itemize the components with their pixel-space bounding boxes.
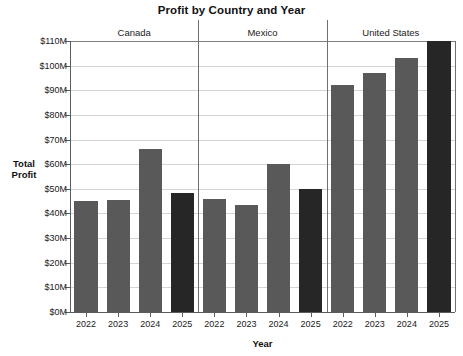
- x-axis-tick-mark: [311, 313, 312, 317]
- bar[interactable]: [203, 199, 226, 312]
- bar[interactable]: [171, 193, 194, 312]
- country-group-label: Mexico: [247, 27, 277, 38]
- x-axis-tick-mark: [150, 313, 151, 317]
- y-axis-tick-label: $50M: [7, 184, 67, 194]
- y-axis-tick-label: $100M: [7, 61, 67, 71]
- x-axis-tick-mark: [279, 313, 280, 317]
- bar[interactable]: [395, 58, 418, 312]
- x-axis-tick-mark: [343, 313, 344, 317]
- y-axis-tick-label: $30M: [7, 233, 67, 243]
- x-axis-tick-label: 2024: [269, 319, 289, 329]
- x-axis-tick-mark: [214, 313, 215, 317]
- country-group-header: Canada: [70, 24, 198, 41]
- x-axis-tick-label: 2025: [429, 319, 449, 329]
- bar[interactable]: [267, 164, 290, 312]
- x-axis-tick-labels: 2022202320242025202220232024202520222023…: [70, 313, 455, 337]
- x-axis-title: Year: [70, 338, 455, 349]
- y-axis-tick-label: $80M: [7, 110, 67, 120]
- y-axis-tick-label: $20M: [7, 258, 67, 268]
- group-divider-line: [327, 20, 328, 41]
- x-axis-tick-mark: [118, 313, 119, 317]
- x-axis-tick-mark: [407, 313, 408, 317]
- y-axis-tick-label: $10M: [7, 282, 67, 292]
- bar[interactable]: [74, 201, 97, 312]
- plot-area: [70, 41, 455, 312]
- x-axis-tick-mark: [86, 313, 87, 317]
- group-divider-line: [198, 41, 199, 312]
- bar[interactable]: [363, 73, 386, 312]
- x-axis-tick-label: 2023: [236, 319, 256, 329]
- bar[interactable]: [299, 189, 322, 312]
- y-axis-tick-label: $110M: [7, 36, 67, 46]
- gridline: [70, 41, 455, 42]
- x-axis-tick-label: 2025: [301, 319, 321, 329]
- y-axis-tick-label: $40M: [7, 208, 67, 218]
- x-axis-tick-mark: [375, 313, 376, 317]
- y-axis-tick-label: $70M: [7, 135, 67, 145]
- group-divider-line: [198, 20, 199, 41]
- y-axis-line: [70, 41, 71, 312]
- country-group-header: Mexico: [198, 24, 326, 41]
- bar[interactable]: [139, 149, 162, 312]
- bar[interactable]: [331, 85, 354, 312]
- bar[interactable]: [107, 200, 130, 312]
- x-axis-tick-label: 2024: [140, 319, 160, 329]
- x-axis-tick-label: 2022: [204, 319, 224, 329]
- chart-title: Profit by Country and Year: [0, 4, 463, 16]
- x-axis-tick-label: 2023: [108, 319, 128, 329]
- x-axis-tick-label: 2024: [397, 319, 417, 329]
- group-divider-line: [327, 41, 328, 312]
- country-header-band: CanadaMexicoUnited States: [70, 24, 455, 41]
- y-axis-tick-label: $0M: [7, 307, 67, 317]
- country-group-header: United States: [327, 24, 455, 41]
- x-axis-tick-mark: [182, 313, 183, 317]
- x-axis-tick-label: 2023: [365, 319, 385, 329]
- y-axis-tick-label: $60M: [7, 159, 67, 169]
- x-axis-tick-mark: [246, 313, 247, 317]
- bar[interactable]: [427, 41, 450, 312]
- x-axis-tick-label: 2025: [172, 319, 192, 329]
- country-group-label: Canada: [118, 27, 151, 38]
- chart-container: Profit by Country and Year Total Profit …: [0, 0, 463, 356]
- x-axis-tick-label: 2022: [333, 319, 353, 329]
- bar[interactable]: [235, 205, 258, 312]
- x-axis-tick-mark: [439, 313, 440, 317]
- right-axis-line: [455, 41, 456, 312]
- country-group-label: United States: [362, 27, 419, 38]
- y-axis-tick-label: $90M: [7, 85, 67, 95]
- x-axis-tick-label: 2022: [76, 319, 96, 329]
